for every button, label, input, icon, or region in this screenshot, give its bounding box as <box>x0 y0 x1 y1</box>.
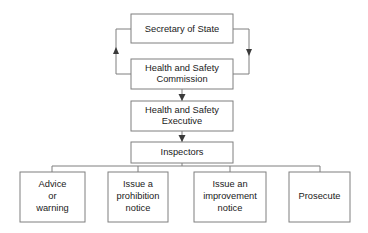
action-advice-line2: or <box>48 191 56 201</box>
node-secretary-of-state-label: Secretary of State <box>145 24 219 34</box>
node-improvement-notice[interactable]: Issue an improvement notice <box>194 172 266 222</box>
edge-executive-to-inspectors <box>179 131 186 142</box>
action-improvement-line2: improvement <box>203 191 257 201</box>
action-prohibition-line1: Issue a <box>123 179 154 189</box>
node-health-and-safety-commission[interactable]: Health and Safety Commission <box>131 59 233 89</box>
node-executive-label-line1: Health and Safety <box>145 105 219 115</box>
action-improvement-line1: Issue an <box>212 179 247 189</box>
flowchart-canvas: Secretary of State Health and Safety Com… <box>0 0 368 233</box>
edge-commission-to-secretary <box>113 29 131 74</box>
action-prohibition-line3: notice <box>126 203 151 213</box>
node-inspectors-label: Inspectors <box>161 147 204 157</box>
edge-commission-to-executive <box>179 89 186 101</box>
action-advice-line1: Advice <box>39 179 67 189</box>
edge-inspectors-to-actions <box>52 163 320 172</box>
action-improvement-line3: notice <box>218 203 243 213</box>
action-prosecute-label: Prosecute <box>299 191 341 201</box>
edge-secretary-to-commission <box>233 29 252 74</box>
node-commission-label-line2: Commission <box>156 74 207 84</box>
node-advice-or-warning[interactable]: Advice or warning <box>20 172 85 222</box>
node-inspectors[interactable]: Inspectors <box>131 142 233 163</box>
action-advice-line3: warning <box>35 203 69 213</box>
node-prohibition-notice[interactable]: Issue a prohibition notice <box>108 172 168 222</box>
action-prohibition-line2: prohibition <box>117 191 160 201</box>
node-commission-label-line1: Health and Safety <box>145 63 219 73</box>
node-prosecute[interactable]: Prosecute <box>289 172 350 222</box>
node-secretary-of-state[interactable]: Secretary of State <box>131 14 233 43</box>
node-health-and-safety-executive[interactable]: Health and Safety Executive <box>131 101 233 131</box>
node-executive-label-line2: Executive <box>162 116 202 126</box>
flowchart-diagram: Secretary of State Health and Safety Com… <box>0 0 368 233</box>
